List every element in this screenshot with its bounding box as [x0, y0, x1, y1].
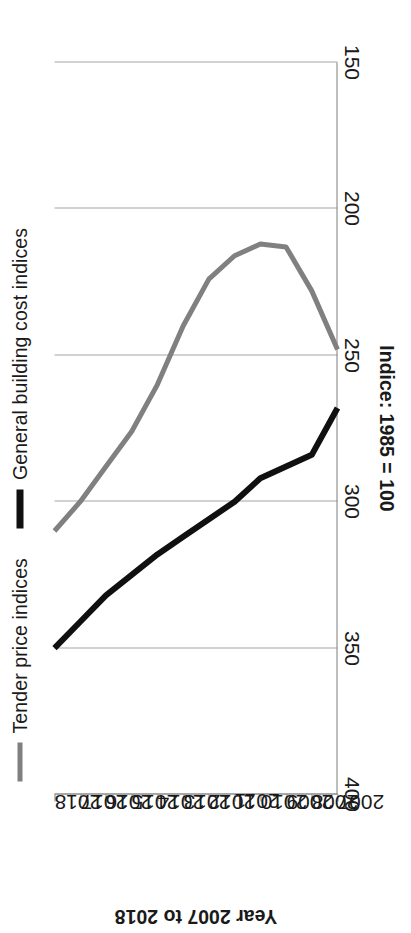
line-chart-figure: Tender price indices General building co…: [0, 0, 411, 933]
y-axis-tick-label: 350: [339, 630, 363, 665]
series-line: [54, 408, 337, 648]
x-axis-tick-labels: 2007200820092010201120122013201420152016…: [54, 801, 337, 887]
y-axis-tick-label: 250: [339, 337, 363, 372]
x-axis-title-text: Year 2007 to 2018: [114, 904, 277, 927]
y-axis-tick-label: 200: [339, 191, 363, 226]
series-lines: [54, 62, 337, 794]
x-axis-title: Year 2007 to 2018: [54, 899, 337, 933]
legend-item-tender-price-indices: Tender price indices: [8, 558, 31, 781]
plot-area: [54, 62, 337, 794]
legend-marker-line-icon: [16, 489, 23, 528]
y-axis-title: Indice: 1985 = 100: [374, 62, 397, 794]
chart-legend: Tender price indices General building co…: [8, 227, 31, 781]
legend-label-tender-price-indices: Tender price indices: [8, 558, 31, 733]
chart-page: Tender price indices General building co…: [0, 0, 411, 933]
y-axis-tick-labels: 400350300250200150: [339, 62, 373, 794]
y-axis-tick-label: 300: [339, 484, 363, 519]
legend-marker-line-icon: [17, 742, 22, 781]
series-line: [54, 244, 337, 531]
y-axis-tick-label: 150: [339, 44, 363, 79]
x-axis-tick-label: 2018: [54, 789, 101, 813]
legend-item-general-building-cost-indices: General building cost indices: [8, 227, 31, 527]
legend-label-general-building-cost-indices: General building cost indices: [8, 227, 31, 479]
